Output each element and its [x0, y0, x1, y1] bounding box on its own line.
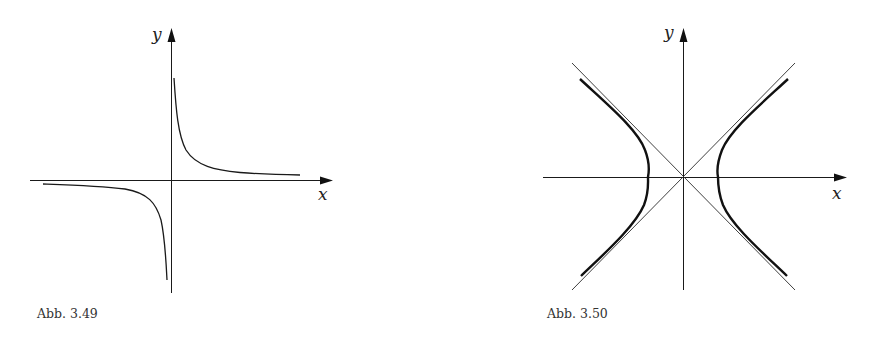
figure-page: x y x y Abb. 3.49 Abb. 3.50: [0, 0, 875, 339]
figure-caption-3-49: Abb. 3.49: [37, 306, 98, 321]
figure-caption-3-50: Abb. 3.50: [547, 306, 608, 321]
hyperbola-branch-quadrant-1: [174, 78, 300, 175]
hyperbola-branch-quadrant-3: [43, 184, 167, 280]
x-axis-label: x: [832, 183, 842, 203]
figure-3-50: x y: [543, 22, 847, 290]
x-axis-arrow-icon: [834, 174, 847, 182]
y-axis-label: y: [663, 22, 674, 42]
figure-3-49: x y: [30, 24, 333, 293]
y-axis-label: y: [151, 24, 162, 44]
y-axis-arrow-icon: [680, 28, 688, 42]
figures-canvas: x y x y: [0, 0, 875, 339]
y-axis-arrow-icon: [168, 28, 176, 42]
x-axis-label: x: [318, 184, 328, 204]
